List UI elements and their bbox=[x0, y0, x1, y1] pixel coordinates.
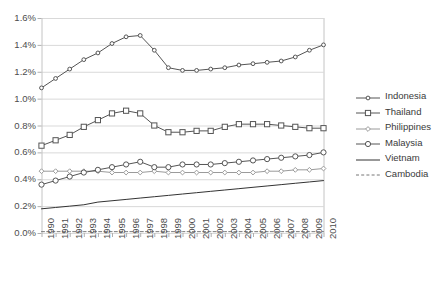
data-point-marker bbox=[307, 126, 312, 131]
data-point-marker bbox=[265, 122, 270, 127]
data-point-marker bbox=[39, 169, 44, 174]
x-axis-tick-label: 2009 bbox=[314, 218, 324, 239]
data-point-marker bbox=[54, 77, 58, 81]
legend-item-cambodia[interactable]: Cambodia bbox=[355, 166, 432, 182]
data-point-marker bbox=[180, 162, 185, 167]
legend-item-philippines[interactable]: Philippines bbox=[355, 119, 432, 135]
x-axis-tick-label: 1997 bbox=[145, 218, 155, 239]
legend-item-malaysia[interactable]: Malaysia bbox=[355, 135, 432, 151]
data-point-marker bbox=[208, 162, 213, 167]
data-point-marker bbox=[53, 138, 58, 143]
data-point-marker bbox=[109, 111, 114, 116]
y-axis-tick-label: 1.4% bbox=[0, 40, 36, 50]
data-point-marker bbox=[166, 165, 171, 170]
data-point-marker bbox=[138, 159, 143, 164]
data-point-marker bbox=[194, 128, 199, 133]
data-point-marker bbox=[96, 51, 100, 55]
data-point-marker bbox=[251, 62, 255, 66]
data-point-marker bbox=[307, 167, 312, 172]
y-axis-tick-label: 0.0% bbox=[0, 228, 36, 238]
data-point-marker bbox=[194, 170, 199, 175]
series-thailand bbox=[39, 108, 326, 148]
data-point-marker bbox=[152, 123, 157, 128]
data-point-marker bbox=[166, 130, 171, 135]
series-indonesia bbox=[40, 34, 326, 90]
data-point-marker bbox=[322, 43, 326, 47]
data-point-marker bbox=[365, 142, 370, 147]
data-point-marker bbox=[366, 96, 370, 100]
data-point-marker bbox=[279, 169, 284, 174]
legend-label: Cambodia bbox=[381, 168, 428, 179]
data-point-marker bbox=[39, 182, 44, 187]
data-point-marker bbox=[265, 156, 270, 161]
data-point-marker bbox=[365, 111, 370, 116]
legend-item-indonesia[interactable]: Indonesia bbox=[355, 88, 432, 104]
data-point-marker bbox=[321, 126, 326, 131]
data-point-marker bbox=[180, 130, 185, 135]
x-axis-tick-label: 2001 bbox=[201, 218, 211, 239]
data-point-marker bbox=[237, 63, 241, 67]
legend-key-malaysia-icon bbox=[355, 136, 381, 148]
data-point-marker bbox=[208, 170, 213, 175]
data-point-marker bbox=[124, 162, 129, 167]
data-point-marker bbox=[195, 69, 199, 73]
data-point-marker bbox=[53, 169, 58, 174]
y-axis-tick-label: 0.8% bbox=[0, 121, 36, 131]
x-axis-tick-label: 1991 bbox=[60, 218, 70, 239]
x-axis-tick-label: 2007 bbox=[286, 218, 296, 239]
data-point-marker bbox=[39, 143, 44, 148]
data-point-marker bbox=[237, 170, 242, 175]
data-point-marker bbox=[181, 69, 185, 73]
legend-label: Vietnam bbox=[381, 152, 420, 163]
x-axis-tick-label: 2010 bbox=[328, 218, 338, 239]
data-point-marker bbox=[110, 42, 114, 46]
data-point-marker bbox=[279, 155, 284, 160]
data-point-marker bbox=[110, 170, 115, 175]
legend-label: Philippines bbox=[381, 121, 431, 132]
legend-item-vietnam[interactable]: Vietnam bbox=[355, 150, 432, 166]
x-axis-tick-label: 2003 bbox=[229, 218, 239, 239]
y-axis-tick-label: 1.2% bbox=[0, 67, 36, 77]
data-point-marker bbox=[138, 34, 142, 38]
data-point-marker bbox=[67, 174, 72, 179]
data-point-marker bbox=[82, 58, 86, 62]
data-point-marker bbox=[209, 67, 213, 71]
legend-item-thailand[interactable]: Thailand bbox=[355, 104, 432, 120]
x-axis-tick-label: 1990 bbox=[46, 218, 56, 239]
x-axis-tick-label: 2008 bbox=[300, 218, 310, 239]
x-axis-tick-label: 2004 bbox=[243, 218, 253, 239]
data-point-marker bbox=[293, 154, 298, 159]
y-axis-tick-label: 0.6% bbox=[0, 147, 36, 157]
x-axis-tick-label: 1996 bbox=[131, 218, 141, 239]
x-axis-tick-label: 2000 bbox=[187, 218, 197, 239]
data-point-marker bbox=[53, 178, 58, 183]
y-axis-tick-label: 0.4% bbox=[0, 174, 36, 184]
data-point-marker bbox=[124, 170, 129, 175]
data-point-marker bbox=[67, 169, 72, 174]
legend-key-cambodia-icon bbox=[355, 167, 381, 179]
data-point-marker bbox=[265, 60, 269, 64]
x-axis-tick-label: 1994 bbox=[102, 218, 112, 239]
x-axis-tick-label: 1995 bbox=[117, 218, 127, 239]
data-point-marker bbox=[67, 132, 72, 137]
series-malaysia bbox=[39, 150, 326, 187]
data-point-marker bbox=[321, 150, 326, 155]
data-point-marker bbox=[95, 118, 100, 123]
data-point-marker bbox=[250, 158, 255, 163]
data-point-marker bbox=[366, 126, 371, 131]
x-axis-tick-label: 2005 bbox=[258, 218, 268, 239]
data-point-marker bbox=[167, 66, 171, 70]
data-point-marker bbox=[321, 166, 326, 171]
data-point-marker bbox=[180, 170, 185, 175]
y-axis-tick-label: 1.0% bbox=[0, 94, 36, 104]
data-point-marker bbox=[279, 123, 284, 128]
legend-label: Malaysia bbox=[381, 137, 423, 148]
data-point-marker bbox=[68, 67, 72, 71]
data-point-marker bbox=[222, 170, 227, 175]
legend-label: Indonesia bbox=[381, 90, 426, 101]
data-point-marker bbox=[223, 66, 227, 70]
legend-key-thailand-icon bbox=[355, 105, 381, 117]
data-point-marker bbox=[124, 35, 128, 39]
x-axis-tick-label: 1998 bbox=[159, 218, 169, 239]
data-point-marker bbox=[293, 124, 298, 129]
